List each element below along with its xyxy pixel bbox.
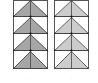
left-triangle-stack	[13, 0, 48, 70]
triangle-grid-right	[54, 0, 89, 70]
right-triangle-stack	[54, 0, 89, 70]
left-caption: · · ·	[13, 76, 48, 81]
triangle-grid-left	[13, 0, 48, 70]
right-caption: ·	[54, 76, 89, 81]
